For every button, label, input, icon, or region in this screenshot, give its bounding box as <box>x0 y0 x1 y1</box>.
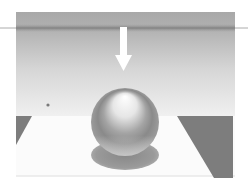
dust-speck <box>46 103 49 106</box>
sphere-lighting-scene <box>0 0 248 187</box>
sphere-reflection <box>91 88 159 156</box>
